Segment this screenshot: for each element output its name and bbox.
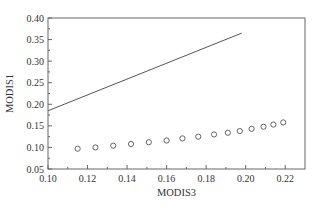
data-point-marker — [146, 140, 151, 145]
data-point-marker — [164, 138, 169, 143]
x-tick-label: 0.16 — [158, 173, 176, 184]
y-tick-label: 0.15 — [27, 120, 45, 131]
y-tick-label: 0.25 — [27, 77, 45, 88]
y-tick-label: 0.05 — [27, 164, 45, 175]
x-tick-label: 0.14 — [118, 173, 136, 184]
data-point-marker — [93, 145, 98, 150]
y-tick-label: 0.40 — [27, 13, 45, 24]
x-tick-label: 0.20 — [237, 173, 255, 184]
x-tick-label: 0.12 — [79, 173, 97, 184]
data-point-marker — [261, 124, 266, 129]
x-tick-label: 0.22 — [276, 173, 294, 184]
y-tick-label: 0.20 — [27, 99, 45, 110]
x-axis-title: MODIS3 — [157, 187, 196, 198]
data-point-marker — [271, 122, 276, 127]
y-tick-label: 0.35 — [27, 34, 45, 45]
data-point-marker — [249, 126, 254, 131]
data-point-marker — [281, 120, 286, 125]
plot-border — [48, 18, 305, 169]
data-point-marker — [180, 136, 185, 141]
x-tick-label: 0.10 — [39, 173, 57, 184]
y-tick-label: 0.30 — [27, 56, 45, 67]
data-point-marker — [196, 134, 201, 139]
x-axis-ticks: 0.100.120.140.160.180.200.22 — [39, 165, 294, 184]
data-point-marker — [128, 141, 133, 146]
data-point-marker — [237, 128, 242, 133]
y-axis-title: MODIS1 — [4, 74, 15, 113]
x-tick-label: 0.18 — [197, 173, 215, 184]
data-point-marker — [211, 132, 216, 137]
series-layer — [48, 33, 286, 151]
y-tick-label: 0.10 — [27, 142, 45, 153]
data-point-marker — [75, 146, 80, 151]
data-point-marker — [225, 130, 230, 135]
plot-frame — [48, 18, 305, 169]
scatter-chart: 0.100.120.140.160.180.200.22 0.050.100.1… — [0, 0, 316, 209]
data-point-marker — [111, 143, 116, 148]
line-series — [48, 33, 242, 111]
